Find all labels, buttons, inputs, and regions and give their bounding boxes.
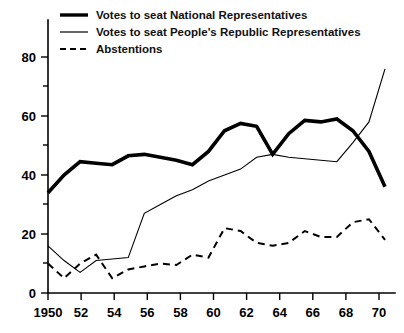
axes xyxy=(48,20,395,293)
x-axis-tick-labels: 1950 52 54 56 58 60 62 64 66 68 70 xyxy=(34,305,387,320)
legend: Votes to seat National Representatives V… xyxy=(60,9,361,55)
x-tick-label-1958: 58 xyxy=(173,305,187,320)
chart-canvas: Votes to seat National Representatives V… xyxy=(0,0,404,333)
x-tick-label-1962: 62 xyxy=(239,305,253,320)
series-group xyxy=(48,69,385,278)
legend-label-abstentions: Abstentions xyxy=(96,43,162,55)
y-axis-ticks xyxy=(41,57,48,293)
x-tick-label-1968: 68 xyxy=(339,305,353,320)
y-tick-label-40: 40 xyxy=(22,168,36,183)
y-tick-label-60: 60 xyxy=(22,109,36,124)
line-chart-figure: Votes to seat National Representatives V… xyxy=(0,0,404,333)
x-tick-label-1952: 52 xyxy=(74,305,88,320)
x-tick-label-1960: 60 xyxy=(206,305,220,320)
y-tick-label-80: 80 xyxy=(22,50,36,65)
series-line-abstentions xyxy=(48,219,385,278)
y-tick-label-20: 20 xyxy=(22,227,36,242)
y-tick-label-0: 0 xyxy=(29,286,36,301)
x-tick-label-1950: 1950 xyxy=(34,305,63,320)
x-tick-label-1970: 70 xyxy=(372,305,386,320)
series-line-national xyxy=(48,119,385,193)
x-tick-label-1966: 66 xyxy=(306,305,320,320)
x-tick-label-1954: 54 xyxy=(107,305,122,320)
y-axis-tick-labels: 80 60 40 20 0 xyxy=(22,50,36,301)
legend-label-national: Votes to seat National Representatives xyxy=(96,9,307,21)
legend-label-peoples-republic: Votes to seat People's Republic Represen… xyxy=(96,26,361,38)
x-tick-label-1956: 56 xyxy=(140,305,154,320)
x-axis-ticks xyxy=(48,293,379,300)
x-tick-label-1964: 64 xyxy=(272,305,287,320)
